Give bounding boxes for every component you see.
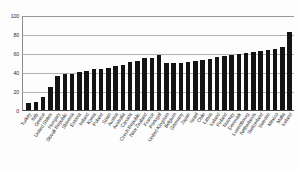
bar-slot [112,16,119,110]
bar[interactable] [26,103,30,110]
bar[interactable] [41,97,45,110]
bar-slot [199,16,206,110]
bar[interactable] [106,68,110,110]
y-tick-label: 0 [16,108,19,114]
plot-area [22,16,294,111]
bar[interactable] [237,54,241,110]
bar-slot [141,16,148,110]
bar-slot [25,16,32,110]
bar-slot [206,16,213,110]
bar-slot [119,16,126,110]
bar-slot [170,16,177,110]
bar[interactable] [92,69,96,110]
bar[interactable] [222,56,226,110]
bar[interactable] [113,66,117,110]
bar[interactable] [128,62,132,110]
bar-slot [163,16,170,110]
bar-slot [235,16,242,110]
bar[interactable] [84,71,88,110]
bar[interactable] [157,55,161,110]
bar-slot [250,16,257,110]
bar-chart: 020406080100 TurkeyItalyGreeceUnited Sta… [0,0,300,171]
bar-slot [177,16,184,110]
bar[interactable] [266,50,270,110]
bar[interactable] [63,74,67,110]
bar-slot [61,16,68,110]
y-axis: 020406080100 [0,0,22,171]
bar[interactable] [251,52,255,110]
bars-layer [24,16,294,110]
x-slot: Turkey [24,111,31,171]
bar[interactable] [164,63,168,110]
y-tick-label: 40 [13,70,19,76]
bar[interactable] [215,57,219,110]
bar-slot [185,16,192,110]
bar[interactable] [121,65,125,110]
bar-slot [69,16,76,110]
bar[interactable] [186,62,190,110]
bar-slot [272,16,279,110]
bar[interactable] [70,74,74,110]
bar-slot [214,16,221,110]
y-tick-label: 80 [13,32,19,38]
bar[interactable] [287,32,291,110]
y-tick-label: 60 [13,51,19,57]
bar-slot [40,16,47,110]
bar[interactable] [193,61,197,110]
bar[interactable] [34,102,38,110]
y-tick-label: 100 [11,13,19,19]
bar-slot [228,16,235,110]
bar-slot [243,16,250,110]
bar-slot [221,16,228,110]
bar-slot [98,16,105,110]
bar[interactable] [273,49,277,110]
bar-slot [257,16,264,110]
bar[interactable] [229,55,233,110]
bar-slot [148,16,155,110]
bar[interactable] [200,60,204,110]
bar[interactable] [208,59,212,110]
bar[interactable] [244,53,248,110]
bar-slot [134,16,141,110]
bar[interactable] [135,61,139,110]
bar-slot [286,16,293,110]
bar-slot [279,16,286,110]
bar-slot [47,16,54,110]
y-tick-label: 20 [13,89,19,95]
bar-slot [192,16,199,110]
bar[interactable] [77,72,81,110]
bar-slot [32,16,39,110]
bar-slot [76,16,83,110]
bar[interactable] [142,58,146,110]
bar-slot [156,16,163,110]
bar[interactable] [171,63,175,110]
bar-slot [105,16,112,110]
bar[interactable] [55,76,59,110]
bar[interactable] [179,63,183,111]
bar-slot [83,16,90,110]
bar[interactable] [280,47,284,110]
x-axis: TurkeyItalyGreeceUnited StatesHungarySlo… [23,111,294,171]
bar[interactable] [99,69,103,110]
bar[interactable] [150,58,154,110]
bar-slot [264,16,271,110]
bar[interactable] [258,51,262,110]
x-slot: Iceland [286,111,293,171]
bar-slot [90,16,97,110]
bar[interactable] [48,87,52,110]
bar-slot [127,16,134,110]
bar-slot [54,16,61,110]
